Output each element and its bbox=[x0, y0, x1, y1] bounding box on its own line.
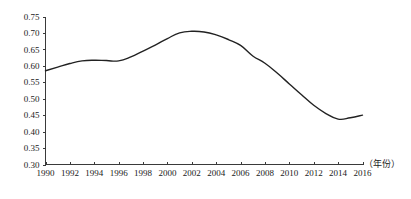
x-axis-label: （年份） bbox=[364, 158, 400, 169]
y-tick-label: 0.35 bbox=[24, 143, 40, 153]
chart-container: 0.300.350.400.450.500.550.600.650.700.75… bbox=[0, 0, 411, 199]
x-tick-label: 2016 bbox=[354, 168, 373, 178]
y-tick-label: 0.50 bbox=[24, 94, 40, 104]
series-line-1 bbox=[46, 31, 363, 119]
x-tick-label: 2014 bbox=[329, 168, 348, 178]
x-tick-label: 1994 bbox=[85, 168, 104, 178]
y-tick-label: 0.70 bbox=[24, 28, 40, 38]
y-tick-label: 0.60 bbox=[24, 61, 40, 71]
x-tick-label: 2004 bbox=[207, 168, 226, 178]
line-chart: 0.300.350.400.450.500.550.600.650.700.75… bbox=[0, 0, 411, 199]
x-tick-label: 1992 bbox=[61, 168, 79, 178]
x-tick-label: 2000 bbox=[158, 168, 177, 178]
y-tick-label: 0.75 bbox=[24, 12, 40, 22]
x-tick-label: 2012 bbox=[305, 168, 323, 178]
y-tick-label: 0.45 bbox=[24, 110, 40, 120]
x-axis: 1990199219941996199820002002200420062008… bbox=[37, 162, 373, 178]
x-tick-label: 1996 bbox=[110, 168, 129, 178]
x-tick-label: 1990 bbox=[37, 168, 56, 178]
y-tick-label: 0.55 bbox=[24, 77, 40, 87]
x-axis-ticks: 1990199219941996199820002002200420062008… bbox=[37, 162, 373, 178]
x-tick-label: 2006 bbox=[232, 168, 251, 178]
x-tick-label: 2008 bbox=[256, 168, 275, 178]
y-tick-label: 0.65 bbox=[24, 45, 40, 55]
x-tick-label: 2002 bbox=[183, 168, 201, 178]
y-axis: 0.300.350.400.450.500.550.600.650.700.75 bbox=[24, 12, 46, 170]
plot-area bbox=[46, 31, 363, 119]
y-tick-label: 0.40 bbox=[24, 127, 40, 137]
x-tick-label: 1998 bbox=[134, 168, 153, 178]
y-axis-ticks: 0.300.350.400.450.500.550.600.650.700.75 bbox=[24, 12, 46, 170]
x-tick-label: 2010 bbox=[280, 168, 299, 178]
